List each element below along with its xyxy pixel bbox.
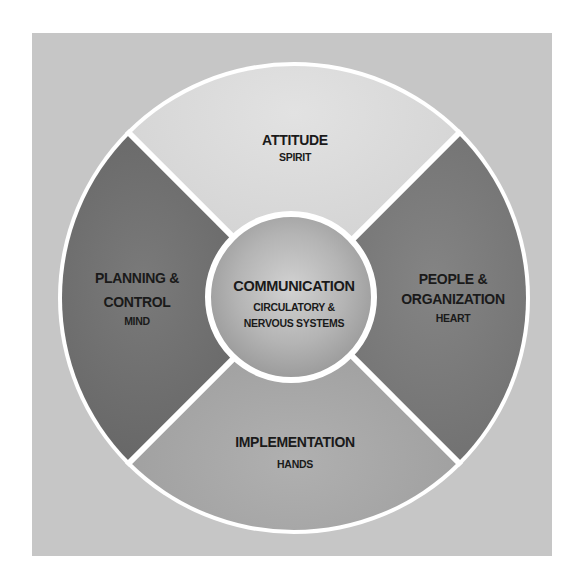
segment-bottom-label: IMPLEMENTATION HANDS: [235, 435, 355, 470]
segment-left-label: PLANNING & CONTROL MIND: [95, 270, 179, 327]
center-hub-label: COMMUNICATION CIRCULATORY & NERVOUS SYST…: [233, 279, 354, 330]
segment-title-line1: PLANNING &: [95, 270, 179, 288]
segment-subtitle: SPIRIT: [262, 152, 328, 163]
segment-title-line2: ORGANIZATION: [401, 291, 504, 309]
segment-title: IMPLEMENTATION: [235, 435, 355, 449]
hub-title: COMMUNICATION: [233, 279, 354, 294]
segment-top-label: ATTITUDE SPIRIT: [262, 133, 328, 163]
segment-title-line1: PEOPLE &: [401, 271, 504, 289]
hub-subtitle-line1: CIRCULATORY &: [233, 300, 354, 314]
segment-title-line2: CONTROL: [95, 294, 179, 312]
segment-subtitle: MIND: [95, 316, 179, 327]
hub-subtitle-line2: NERVOUS SYSTEMS: [233, 316, 354, 330]
segment-title: ATTITUDE: [262, 133, 328, 147]
segment-subtitle: HANDS: [235, 459, 355, 470]
segment-subtitle: HEART: [401, 313, 504, 324]
segment-right-label: PEOPLE & ORGANIZATION HEART: [401, 271, 504, 324]
